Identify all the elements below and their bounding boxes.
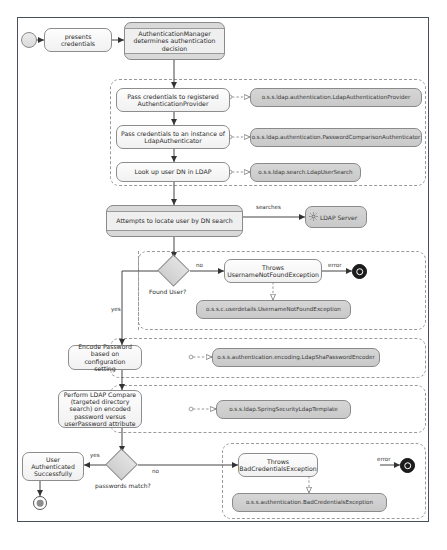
note-username-not-found-exception[interactable]: o.s.s.c.userdetails.UsernameNotFoundExce… <box>196 300 351 319</box>
activity-throws-username-not-found[interactable]: Throws UsernameNotFoundException <box>224 259 322 283</box>
node-ldap-server-label: LDAP Server <box>320 214 357 221</box>
activity-throws-bad-credentials[interactable]: Throws BadCredentialsException <box>238 453 318 477</box>
edge-label-error-bce: error <box>377 456 391 462</box>
note-bad-credentials-exception[interactable]: o.s.s.authentication.BadCredentialsExcep… <box>232 493 387 512</box>
edge-label-found-no: no <box>196 262 203 268</box>
activity-encode-password[interactable]: Encode Password based on configuration s… <box>68 345 142 370</box>
decision-passwords-match-label: passwords match? <box>95 482 151 489</box>
note-spring-security-ldap-template[interactable]: o.s.s.ldap.SpringSecurityLdapTemplate <box>216 400 351 419</box>
decision-passwords-match[interactable] <box>110 453 133 476</box>
note-ldap-sha-password-encoder[interactable]: o.s.s.authentication.encoding.LdapShaPas… <box>212 348 380 367</box>
edge-label-match-no: no <box>152 468 159 474</box>
note-password-comparison-authenticator[interactable]: o.s.s.ldap.authentication.PasswordCompar… <box>250 128 422 147</box>
activity-attempts-locate-user[interactable]: Attempts to locate user by DN search <box>106 205 243 237</box>
activity-authentication-manager[interactable]: AuthenticationManager determines authent… <box>124 22 225 60</box>
edge-label-searches: searches <box>256 204 281 210</box>
final-node-success <box>33 496 47 510</box>
node-ldap-server[interactable]: LDAP Server <box>305 206 367 228</box>
final-node-error-unfe <box>352 264 367 279</box>
edge-label-found-yes: yes <box>111 306 121 312</box>
activity-pass-credentials-to-authenticator[interactable]: Pass credentials to an instance of LdapA… <box>116 125 230 149</box>
edge-label-error-unfe: error <box>328 262 342 268</box>
activity-pass-credentials-to-provider[interactable]: Pass credentials to registered Authentic… <box>116 88 230 112</box>
initial-node <box>21 32 37 48</box>
decision-found-user-label: Found User? <box>149 288 186 295</box>
activity-user-authenticated[interactable]: User Authenticated Successfully <box>22 452 84 481</box>
activity-look-up-user-dn[interactable]: Look up user DN in LDAP <box>116 162 230 182</box>
final-node-error-bce <box>400 458 415 473</box>
edge-label-match-yes: yes <box>90 452 100 458</box>
activity-authentication-manager-label: AuthenticationManager determines authent… <box>125 28 224 54</box>
note-ldap-authentication-provider[interactable]: o.s.s.ldap.authentication.LdapAuthentica… <box>250 88 422 107</box>
gear-icon <box>309 212 318 222</box>
activity-presents-credentials[interactable]: presents credentials <box>44 28 112 52</box>
decision-found-user[interactable] <box>162 259 185 282</box>
activity-attempts-locate-user-label: Attempts to locate user by DN search <box>107 211 242 231</box>
activity-perform-ldap-compare[interactable]: Perform LDAP Compare (targeted directory… <box>58 390 142 428</box>
activity-diagram-canvas: presents credentials AuthenticationManag… <box>0 0 447 550</box>
note-ldap-user-search[interactable]: o.s.s.ldap.search.LdapUserSearch <box>250 163 361 182</box>
